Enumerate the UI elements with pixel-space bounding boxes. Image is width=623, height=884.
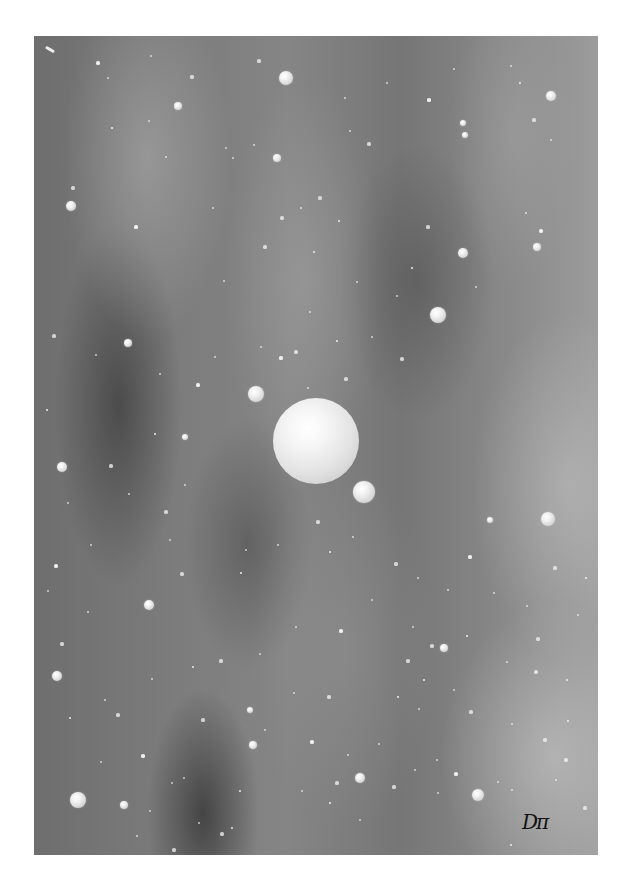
star-dot — [141, 754, 144, 757]
star-dot — [104, 699, 106, 701]
star-dot — [96, 61, 99, 64]
star-dot — [392, 785, 395, 788]
star-dot — [466, 635, 468, 637]
star-dot — [414, 769, 416, 771]
star-sphere — [182, 434, 188, 440]
star-dot — [497, 781, 499, 783]
comet-streak — [45, 46, 55, 54]
star-dot — [245, 549, 247, 551]
star-dot — [394, 562, 397, 565]
star-sphere — [472, 789, 484, 801]
star-sphere — [462, 132, 468, 138]
star-dot — [107, 77, 109, 79]
star-dot — [553, 566, 556, 569]
star-sphere — [70, 792, 86, 808]
star-sphere — [66, 201, 76, 211]
star-dot — [69, 717, 71, 719]
star-dot — [60, 642, 63, 645]
star-dot — [338, 220, 340, 222]
star-dot — [164, 510, 167, 513]
star-dot — [329, 802, 331, 804]
star-dot — [109, 464, 112, 467]
star-sphere — [430, 307, 446, 323]
star-dot — [134, 225, 137, 228]
star-dot — [371, 336, 373, 338]
star-dot — [339, 629, 342, 632]
star-dot — [506, 661, 508, 663]
star-dot — [294, 350, 297, 353]
star-dot — [318, 196, 321, 199]
star-sphere — [273, 154, 281, 162]
star-dot — [201, 718, 204, 721]
star-dot — [475, 286, 477, 288]
star-dot — [447, 589, 449, 591]
star-dot — [327, 695, 330, 698]
artist-signature: Dπ — [522, 812, 547, 832]
star-dot — [411, 267, 413, 269]
star-dot — [259, 653, 261, 655]
star-dot — [426, 225, 429, 228]
star-dot — [313, 251, 315, 253]
star-dot — [356, 281, 358, 283]
star-dot — [525, 212, 527, 214]
star-dot — [300, 207, 302, 209]
star-dot — [564, 758, 567, 761]
star-dot — [536, 637, 539, 640]
star-dot — [329, 551, 331, 553]
star-dot — [239, 790, 241, 792]
star-dot — [344, 377, 347, 380]
star-dot — [264, 729, 266, 731]
star-dot — [149, 810, 151, 812]
star-dot — [567, 720, 569, 722]
star-dot — [240, 572, 242, 574]
star-dot — [293, 692, 295, 694]
star-dot — [260, 346, 262, 348]
star-dot — [280, 216, 283, 219]
star-sphere — [144, 600, 154, 610]
star-dot — [301, 790, 303, 792]
star-dot — [412, 626, 414, 628]
star-dot — [100, 761, 102, 763]
star-sphere — [355, 773, 365, 783]
star-dot — [165, 156, 167, 158]
star-dot — [169, 539, 171, 541]
star-dot — [493, 592, 495, 594]
star-sphere — [279, 71, 293, 85]
star-dot — [171, 782, 173, 784]
star-dot — [539, 229, 542, 232]
star-dot — [307, 387, 309, 389]
star-sphere — [247, 707, 253, 713]
star-dot — [543, 738, 546, 741]
star-dot — [378, 743, 380, 745]
star-dot — [52, 334, 55, 337]
star-dot — [526, 605, 528, 607]
star-dot — [417, 577, 419, 579]
star-dot — [67, 502, 69, 504]
star-dot — [310, 740, 313, 743]
star-dot — [116, 713, 119, 716]
star-dot — [111, 127, 113, 129]
star-sphere — [52, 671, 62, 681]
star-dot — [95, 354, 97, 356]
star-dot — [335, 781, 338, 784]
star-dot — [577, 614, 579, 616]
star-dot — [223, 280, 225, 282]
star-dot — [277, 544, 279, 546]
star-dot — [397, 696, 399, 698]
star-dot — [295, 626, 297, 628]
star-dot — [469, 710, 472, 713]
star-dot — [418, 708, 420, 710]
star-dot — [349, 130, 351, 132]
star-dot — [359, 819, 361, 821]
star-dot — [316, 520, 319, 523]
star-sphere — [460, 120, 466, 126]
star-sphere — [533, 243, 541, 251]
star-dot — [231, 827, 233, 829]
star-dot — [172, 848, 175, 851]
moon — [353, 481, 375, 503]
star-dot — [511, 789, 513, 791]
star-sphere — [541, 512, 555, 526]
star-dot — [583, 806, 586, 809]
star-dot — [184, 484, 186, 486]
star-dot — [214, 356, 216, 358]
